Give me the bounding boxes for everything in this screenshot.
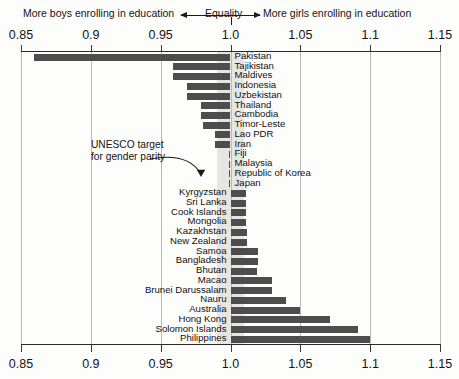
- bar: [231, 258, 259, 265]
- x-tick-mark: [440, 345, 441, 352]
- bar: [173, 63, 230, 70]
- plot-area: PakistanTajikistanMaldivesIndonesiaUzbek…: [0, 52, 459, 344]
- bar: [231, 297, 287, 304]
- bar: [231, 336, 371, 343]
- bar-row: Macao: [0, 276, 459, 286]
- bar: [231, 190, 246, 197]
- x-tick-label-1.05: 1.05: [288, 28, 312, 42]
- bar-row: Kazakhstan: [0, 228, 459, 238]
- bar-row: Pakistan: [0, 53, 459, 63]
- x-tick-mark: [231, 345, 232, 352]
- x-axis-top: 0.850.90.951.01.051.11.15: [0, 28, 459, 48]
- bar-row: Australia: [0, 306, 459, 316]
- bar-row: Bangladesh: [0, 257, 459, 267]
- x-tick-mark: [21, 345, 22, 352]
- x-tick-label-0.9: 0.9: [82, 28, 99, 42]
- unesco-target-annotation: UNESCO target for gender parity: [91, 139, 165, 163]
- bar-row: Bhutan: [0, 267, 459, 277]
- x-tick-label-0.95: 0.95: [148, 357, 172, 371]
- bar: [231, 248, 259, 255]
- bar: [187, 83, 230, 90]
- bar-row: Indonesia: [0, 82, 459, 92]
- bar: [231, 219, 246, 226]
- x-tick-mark: [161, 345, 162, 352]
- bar: [229, 151, 230, 158]
- more-girls-label: More girls enrolling in education: [263, 7, 411, 19]
- bar: [229, 180, 230, 187]
- bar: [231, 200, 246, 207]
- bar: [229, 161, 230, 168]
- plot-top-border: [21, 51, 441, 52]
- bar-row: New Zealand: [0, 238, 459, 248]
- bar: [231, 307, 301, 314]
- bar-row: Maldives: [0, 72, 459, 82]
- category-label: Japan: [235, 178, 261, 188]
- bar-row: Fiji: [0, 150, 459, 160]
- x-tick-label-1.1: 1.1: [361, 28, 378, 42]
- bar-row: Lao PDR: [0, 130, 459, 140]
- bar: [215, 141, 230, 148]
- unesco-annotation-line2: for gender parity: [91, 151, 165, 163]
- equality-label: Equality: [205, 7, 242, 19]
- x-tick-label-1.15: 1.15: [428, 357, 452, 371]
- gender-parity-index-chart: More boys enrolling in education Equalit…: [0, 0, 459, 379]
- x-axis-bottom: 0.850.90.951.01.051.11.15: [0, 357, 459, 377]
- category-label: Philippines: [180, 333, 226, 343]
- bar-row: Timor-Leste: [0, 121, 459, 131]
- x-tick-label-1.0: 1.0: [222, 28, 239, 42]
- bar-row: Samoa: [0, 247, 459, 257]
- bar-row: Uzbekistan: [0, 92, 459, 102]
- bar: [34, 54, 231, 61]
- bar: [173, 73, 230, 80]
- bar-row: Japan: [0, 179, 459, 189]
- bar: [229, 170, 230, 177]
- bar: [231, 268, 258, 275]
- bar-row: Cambodia: [0, 111, 459, 121]
- bar-row: Nauru: [0, 296, 459, 306]
- bar: [231, 316, 330, 323]
- bar-row: Solomon Islands: [0, 325, 459, 335]
- bar: [203, 122, 231, 129]
- x-tick-mark: [91, 345, 92, 352]
- bar: [231, 326, 358, 333]
- x-tick-label-0.85: 0.85: [9, 357, 33, 371]
- x-tick-label-0.9: 0.9: [82, 357, 99, 371]
- bar-row: Cook Islands: [0, 208, 459, 218]
- x-tick-label-1.1: 1.1: [361, 357, 378, 371]
- arrow-right-icon: [218, 15, 260, 16]
- x-tick-label-1.0: 1.0: [222, 357, 239, 371]
- bar: [215, 131, 230, 138]
- bar-row: Hong Kong: [0, 315, 459, 325]
- chart-header-annotations: More boys enrolling in education Equalit…: [0, 6, 459, 24]
- bar-row: Tajikistan: [0, 62, 459, 72]
- unesco-annotation-line1: UNESCO target: [91, 139, 165, 151]
- bar-row: Sri Lanka: [0, 199, 459, 209]
- x-tick-label-0.95: 0.95: [148, 28, 172, 42]
- bar: [231, 209, 246, 216]
- bar: [201, 102, 230, 109]
- bar: [231, 277, 273, 284]
- bar-row: Republic of Korea: [0, 169, 459, 179]
- bar-row: Malaysia: [0, 160, 459, 170]
- bar-row: Brunei Darussalam: [0, 286, 459, 296]
- bar: [187, 93, 230, 100]
- x-tick-mark: [300, 345, 301, 352]
- x-tick-label-1.05: 1.05: [288, 357, 312, 371]
- bar: [231, 229, 248, 236]
- bar-row: Thailand: [0, 101, 459, 111]
- bar-row: Iran: [0, 140, 459, 150]
- x-tick-label-1.15: 1.15: [428, 28, 452, 42]
- x-tick-label-0.85: 0.85: [9, 28, 33, 42]
- bar: [201, 112, 230, 119]
- bar: [231, 287, 273, 294]
- bar-row: Mongolia: [0, 218, 459, 228]
- x-tick-mark: [370, 345, 371, 352]
- more-boys-label: More boys enrolling in education: [23, 7, 174, 19]
- bar: [231, 239, 248, 246]
- bar-row: Kyrgyzstan: [0, 189, 459, 199]
- equality-pointer-line: [231, 17, 232, 25]
